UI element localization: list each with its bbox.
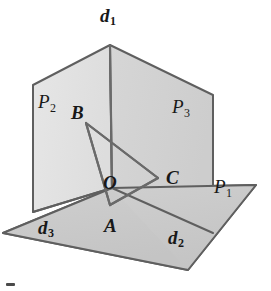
plane-p2-letter: P	[38, 91, 50, 112]
edge-d1-letter: d	[100, 5, 110, 26]
point-label-b: B	[71, 103, 84, 122]
plane-p1-subscript: 1	[226, 186, 232, 200]
plane-label-p1: P1	[214, 177, 232, 199]
scan-artifact-speck	[6, 283, 15, 286]
edge-d3-letter: d	[38, 217, 48, 238]
edge-d3-subscript: 3	[48, 226, 54, 240]
edge-label-d2: d2	[168, 228, 184, 249]
plane-p3-subscript: 3	[184, 106, 190, 120]
plane-p2-surface	[33, 45, 112, 212]
geometry-figure: d1 d2 d3 P1 P2 P3 A B C O	[0, 0, 271, 291]
point-label-o: O	[103, 173, 117, 192]
plane-label-p3: P3	[172, 97, 190, 119]
edge-d2-subscript: 2	[178, 236, 184, 250]
point-label-a: A	[104, 216, 117, 235]
edge-label-d3: d3	[38, 218, 54, 239]
plane-p2-subscript: 2	[50, 101, 56, 115]
figure-canvas	[0, 0, 271, 291]
edge-d2-letter: d	[168, 227, 178, 248]
edge-d1-subscript: 1	[110, 14, 116, 28]
plane-p1-letter: P	[214, 176, 226, 197]
plane-label-p2: P2	[38, 92, 56, 114]
point-label-c: C	[166, 168, 179, 187]
edge-label-d1: d1	[100, 6, 116, 27]
plane-p3-letter: P	[172, 96, 184, 117]
